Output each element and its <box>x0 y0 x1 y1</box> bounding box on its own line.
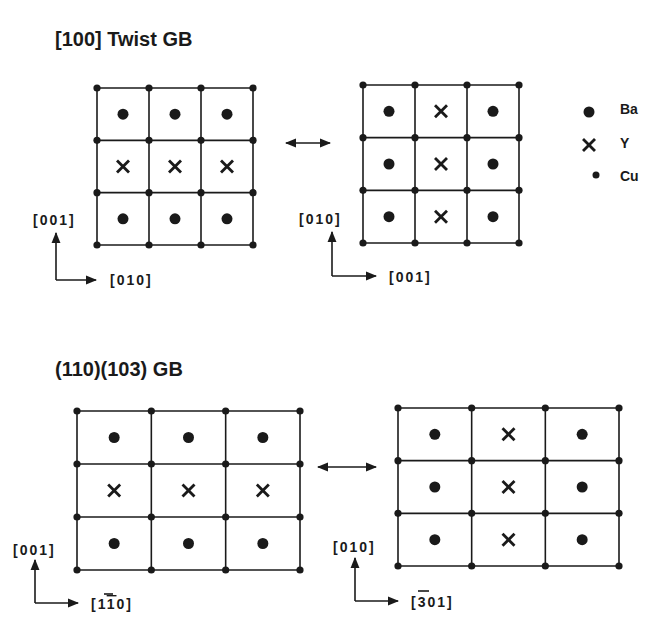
cu-atom-icon <box>249 137 256 144</box>
cu-atom-icon <box>197 137 204 144</box>
cu-atom-icon <box>197 241 204 248</box>
cu-atom-icon <box>615 510 622 517</box>
y-atom-icon <box>436 106 446 116</box>
cu-atom-icon <box>394 404 401 411</box>
grain-boundary-diagram: [100] Twist GB (110)(103) GB [001] [010]… <box>0 0 668 630</box>
legend-label-cu: Cu <box>620 168 639 184</box>
cu-atom-icon <box>542 457 549 464</box>
cu-atom-icon <box>296 513 303 520</box>
ba-atom-icon <box>222 213 233 224</box>
cu-atom-icon <box>145 189 152 196</box>
cu-atom-icon <box>222 407 229 414</box>
y-atom-icon <box>170 162 180 172</box>
axis-label-vertical: [010] <box>333 539 376 555</box>
cu-atom-icon <box>145 84 152 91</box>
cu-atom-icon <box>145 137 152 144</box>
tilt-left-axes: [001] [110] <box>13 542 133 612</box>
ba-atom-icon <box>577 482 588 493</box>
ba-atom-icon <box>257 538 268 549</box>
y-atom-icon <box>184 486 194 496</box>
cu-atom-icon <box>515 134 522 141</box>
cu-atom-icon <box>296 460 303 467</box>
cu-atom-icon <box>463 81 470 88</box>
ba-atom-icon <box>429 429 440 440</box>
ba-atom-icon <box>488 211 499 222</box>
ba-atom-icon <box>170 213 181 224</box>
ba-atom-icon <box>109 432 120 443</box>
cu-atom-icon <box>468 562 475 569</box>
ba-atom-icon <box>488 159 499 170</box>
legend-label-y: Y <box>620 135 630 151</box>
cu-atom-icon <box>468 510 475 517</box>
y-atom-icon <box>504 429 514 439</box>
ba-atom-icon <box>257 432 268 443</box>
cu-atom-icon <box>73 513 80 520</box>
cu-atom-icon <box>542 562 549 569</box>
tilt-right-lattice <box>394 404 622 569</box>
cu-atom-icon <box>542 404 549 411</box>
cu-atom-icon <box>411 187 418 194</box>
cu-atom-icon <box>249 189 256 196</box>
tilt-gb-title: (110)(103) GB <box>55 358 183 380</box>
y-atom-icon <box>109 486 119 496</box>
twist-right-lattice <box>359 81 522 246</box>
cu-atom-icon <box>148 513 155 520</box>
ba-atom-icon <box>109 538 120 549</box>
cu-atom-icon <box>468 404 475 411</box>
cu-atom-icon <box>468 457 475 464</box>
ba-atom-icon <box>488 106 499 117</box>
cu-atom-icon <box>463 134 470 141</box>
axis-label-vertical: [001] <box>13 542 56 558</box>
cu-atom-icon <box>296 407 303 414</box>
cu-atom-icon <box>615 562 622 569</box>
y-atom-icon <box>504 482 514 492</box>
cu-atom-icon <box>73 566 80 573</box>
ba-atom-icon <box>170 109 181 120</box>
cu-atom-icon <box>359 81 366 88</box>
y-atom-icon <box>258 486 268 496</box>
y-atom-icon <box>436 212 446 222</box>
cu-atom-icon <box>148 566 155 573</box>
cu-atom-icon <box>515 187 522 194</box>
cu-atom-icon <box>93 189 100 196</box>
cu-atom-icon <box>222 513 229 520</box>
cu-atom-icon <box>73 460 80 467</box>
twist-left-lattice <box>93 84 256 248</box>
ba-atom-icon <box>118 109 129 120</box>
ba-atom-icon <box>384 159 395 170</box>
axis-label-horizontal: [001] <box>389 269 432 285</box>
y-atom-icon <box>436 159 446 169</box>
cu-atom-icon <box>359 134 366 141</box>
ba-atom-icon <box>183 538 194 549</box>
cu-atom-icon <box>93 137 100 144</box>
cu-atom-icon <box>249 241 256 248</box>
y-atom-icon <box>504 535 514 545</box>
cu-atom-icon <box>411 134 418 141</box>
cu-atom-icon <box>197 189 204 196</box>
axis-label-vertical: [001] <box>33 212 76 228</box>
cu-atom-icon <box>148 460 155 467</box>
twist-right-axes: [010] [001] <box>299 211 432 285</box>
cu-atom-icon <box>145 241 152 248</box>
cu-atom-icon <box>463 239 470 246</box>
ba-atom-icon <box>384 211 395 222</box>
cu-atom-icon <box>359 239 366 246</box>
ba-atom-icon <box>577 534 588 545</box>
axis-label-horizontal: [110] <box>91 596 133 612</box>
cu-atom-icon <box>463 187 470 194</box>
cu-atom-icon <box>197 84 204 91</box>
ba-atom-icon <box>118 213 129 224</box>
axis-label-horizontal: [301] <box>411 594 454 610</box>
y-atom-icon <box>222 162 232 172</box>
cu-atom-icon <box>296 566 303 573</box>
legend: Ba Y Cu <box>584 101 639 184</box>
ba-atom-icon <box>384 106 395 117</box>
cu-atom-icon <box>93 241 100 248</box>
cu-atom-icon <box>411 239 418 246</box>
ba-atom-icon <box>429 482 440 493</box>
ba-atom-icon <box>222 109 233 120</box>
tilt-right-axes: [010] [301] <box>333 539 454 610</box>
cu-atom-icon <box>148 407 155 414</box>
legend-label-ba: Ba <box>620 101 638 117</box>
ba-atom-icon <box>584 107 595 118</box>
